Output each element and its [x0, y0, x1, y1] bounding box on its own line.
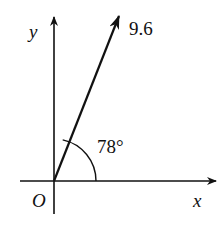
angle-label: 78° [97, 136, 124, 157]
vector-diagram: y x O 9.6 78° [0, 0, 221, 226]
origin-label: O [32, 190, 46, 211]
magnitude-label: 9.6 [129, 18, 153, 39]
x-axis-label: x [192, 190, 202, 211]
y-axis-label: y [27, 21, 38, 42]
